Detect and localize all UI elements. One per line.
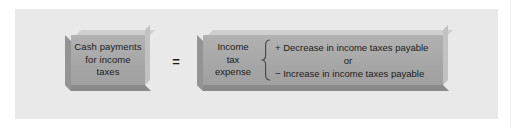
option-increase: − Increase in income taxes payable <box>275 67 443 80</box>
cash-payments-line-1: Cash payments <box>74 41 141 52</box>
cash-payments-line-3: taxes <box>96 66 119 77</box>
income-tax-line-3: expense <box>215 66 251 77</box>
option-or: or <box>275 54 443 67</box>
box-bevel-bottom <box>65 85 151 91</box>
income-tax-expense-box: Income tax expense + Decrease in income … <box>203 35 443 85</box>
box-bevel-bottom <box>197 85 449 91</box>
cash-payments-label: Cash payments for income taxes <box>74 41 141 79</box>
options-list: + Decrease in income taxes payable or − … <box>272 41 443 80</box>
right-edge-rule <box>510 0 511 128</box>
equals-sign: = <box>163 52 189 72</box>
curly-brace-icon <box>260 39 272 81</box>
box-bevel-right <box>145 25 150 85</box>
box-bevel-right <box>443 25 448 85</box>
cash-payments-box-face: Cash payments for income taxes <box>71 35 145 85</box>
income-tax-line-1: Income <box>217 41 248 52</box>
income-tax-expense-label: Income tax expense <box>207 41 259 79</box>
option-decrease: + Decrease in income taxes payable <box>275 41 443 54</box>
formula-figure: Cash payments for income taxes = Income … <box>0 0 514 128</box>
income-tax-expense-box-face: Income tax expense + Decrease in income … <box>203 35 443 85</box>
income-tax-line-2: tax <box>227 54 240 65</box>
cash-payments-line-2: for income <box>85 54 130 65</box>
cash-payments-box: Cash payments for income taxes <box>71 35 145 85</box>
